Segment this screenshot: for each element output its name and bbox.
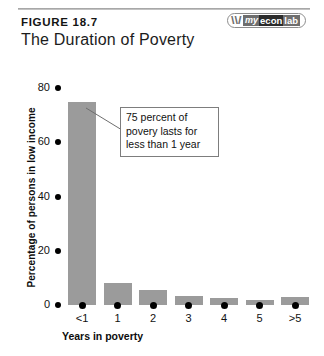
y-tick-dot bbox=[55, 248, 61, 254]
bar bbox=[68, 102, 96, 305]
x-tick-dot bbox=[114, 302, 121, 309]
x-tick-label: 1 bbox=[101, 312, 135, 324]
callout-leader-line bbox=[86, 108, 122, 130]
x-tick-label: >5 bbox=[278, 312, 312, 324]
bar-chart: Percentage of persons in low income 0204… bbox=[0, 0, 324, 356]
x-axis-title: Years in poverty bbox=[62, 330, 143, 342]
x-tick-dot bbox=[221, 302, 228, 309]
y-tick-label: 40 bbox=[24, 190, 50, 202]
x-tick-label: 2 bbox=[136, 312, 170, 324]
y-tick-dot bbox=[55, 139, 61, 145]
x-tick-label: 5 bbox=[243, 312, 277, 324]
y-tick-label: 80 bbox=[24, 81, 50, 93]
y-tick-dot bbox=[55, 194, 61, 200]
x-tick-label: 3 bbox=[172, 312, 206, 324]
x-tick-dot bbox=[79, 302, 86, 309]
x-tick-label: 4 bbox=[207, 312, 241, 324]
x-tick-dot bbox=[256, 302, 263, 309]
y-tick-label: 60 bbox=[24, 135, 50, 147]
y-tick-label: 20 bbox=[24, 244, 50, 256]
x-tick-dot bbox=[150, 302, 157, 309]
x-tick-dot bbox=[185, 302, 192, 309]
x-tick-dot bbox=[292, 302, 299, 309]
y-tick-dot bbox=[55, 85, 61, 91]
callout-annotation: 75 percent of povery lasts for less than… bbox=[120, 107, 219, 157]
x-tick-label: <1 bbox=[65, 312, 99, 324]
y-tick-label: 0 bbox=[24, 298, 50, 310]
y-tick-dot bbox=[55, 302, 61, 308]
